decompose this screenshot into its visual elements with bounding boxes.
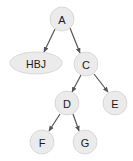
node-group: A HBJ C D E F [10, 7, 127, 154]
node-hbj-label: HBJ [26, 58, 46, 70]
node-g-label: G [81, 137, 90, 149]
node-e[interactable]: E [103, 91, 127, 115]
edge-a-to-hbj [44, 29, 55, 52]
edge-group [44, 28, 108, 131]
edge-c-to-d [72, 75, 81, 92]
edge-d-to-g [73, 114, 79, 131]
node-f[interactable]: F [30, 130, 54, 154]
node-e-label: E [111, 98, 118, 110]
node-g[interactable]: G [73, 130, 97, 154]
edge-d-to-f [49, 114, 60, 131]
node-a-label: A [58, 14, 66, 26]
tree-canvas: A HBJ C D E F [0, 0, 133, 161]
tree-diagram: A HBJ C D E F [0, 0, 133, 161]
node-c-label: C [82, 59, 90, 71]
edge-a-to-c [70, 28, 80, 53]
node-d[interactable]: D [55, 91, 79, 115]
edge-c-to-e [94, 74, 108, 92]
node-d-label: D [63, 98, 71, 110]
node-c[interactable]: C [74, 52, 98, 76]
node-a[interactable]: A [50, 7, 74, 31]
node-f-label: F [39, 137, 46, 149]
node-hbj[interactable]: HBJ [10, 52, 62, 74]
